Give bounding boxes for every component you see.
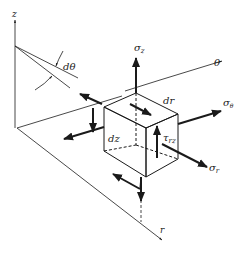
- d-theta-arc-lower: [35, 76, 52, 90]
- stress-arrows: [64, 58, 221, 201]
- sigma-r-subscript: r: [216, 167, 220, 175]
- sigma-r-arrow: [162, 144, 207, 167]
- sigma-theta-label: σθ: [223, 97, 234, 109]
- z-axis-label: z: [11, 9, 17, 19]
- dr-label: dr: [163, 95, 175, 106]
- sigma-r-back-arrow: [80, 94, 102, 104]
- labels: z dθ θ r dr dz σz σθ σr τrz: [11, 9, 234, 235]
- cube-front-face: [146, 114, 178, 177]
- shear-top-arrow: [130, 104, 151, 115]
- theta-axis-label: θ: [214, 57, 220, 68]
- cube-hidden-left: [104, 145, 136, 151]
- theta-base-line: [125, 80, 160, 91]
- sigma-theta-subscript: θ: [230, 102, 234, 109]
- tau-rz-label: τrz: [163, 132, 176, 145]
- shear-bottom-left-arrow: [113, 174, 140, 189]
- tau-rz-subscript: rz: [169, 137, 176, 145]
- radial-line-2: [15, 46, 70, 88]
- sigma-r-label: σr: [209, 162, 220, 175]
- sigma-theta-back-arrow: [64, 127, 104, 139]
- axes: [15, 20, 222, 240]
- d-theta-arc-upper: [56, 51, 63, 66]
- stress-element-diagram: z dθ θ r dr dz σz σθ σr τrz: [0, 0, 242, 254]
- base-plane-line: [17, 96, 122, 128]
- sigma-z-subscript: z: [140, 47, 145, 55]
- theta-axis: [160, 61, 222, 80]
- sigma-theta-arrow: [178, 111, 221, 124]
- d-theta-label: dθ: [63, 61, 75, 72]
- sigma-z-label: σz: [134, 42, 145, 55]
- r-axis-label: r: [160, 225, 165, 235]
- dz-label: dz: [108, 133, 120, 144]
